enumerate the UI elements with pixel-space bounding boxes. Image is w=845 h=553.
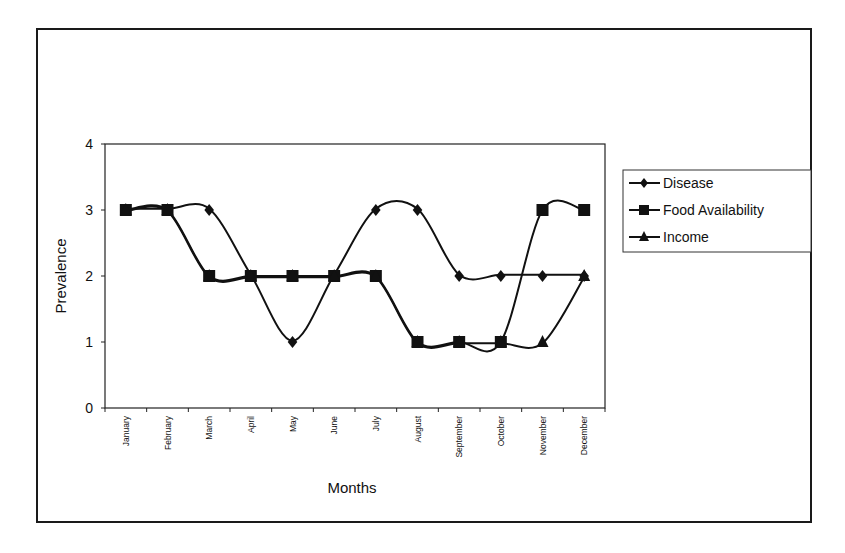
series-line <box>126 201 584 341</box>
x-axis-title: Months <box>327 479 376 496</box>
series-food-availability <box>126 201 584 352</box>
legend: DiseaseFood AvailabilityIncome <box>623 170 811 252</box>
x-tick-label: October <box>496 416 506 446</box>
triangle-marker-icon <box>537 335 549 347</box>
y-tick-label: 4 <box>85 136 93 152</box>
y-axis: 01234 <box>85 136 105 416</box>
series-disease <box>126 201 584 341</box>
legend-label: Income <box>663 229 709 245</box>
x-tick-label: April <box>246 416 256 433</box>
diamond-marker-icon <box>288 336 298 348</box>
y-tick-label: 3 <box>85 202 93 218</box>
y-tick-label: 0 <box>85 400 93 416</box>
line-chart: 01234 JanuaryFebruaryMarchAprilMayJuneJu… <box>0 0 845 553</box>
series-markers <box>121 204 589 348</box>
square-marker-icon <box>537 204 549 216</box>
x-tick-label: February <box>163 415 173 450</box>
x-tick-label: July <box>371 415 381 431</box>
series-income <box>126 207 584 348</box>
x-axis: JanuaryFebruaryMarchAprilMayJuneJulyAugu… <box>105 408 605 458</box>
x-tick-label: December <box>579 416 589 455</box>
x-tick-label: September <box>454 416 464 458</box>
square-marker-icon <box>639 205 649 215</box>
series-line <box>126 201 584 352</box>
legend-label: Food Availability <box>663 202 764 218</box>
series-line <box>126 207 584 348</box>
plot-border <box>105 144 605 408</box>
x-tick-label: May <box>288 415 298 432</box>
diamond-marker-icon <box>496 270 506 282</box>
y-tick-label: 2 <box>85 268 93 284</box>
diamond-marker-icon <box>538 270 548 282</box>
x-tick-label: June <box>329 416 339 435</box>
x-tick-label: August <box>413 415 423 442</box>
x-tick-label: November <box>538 416 548 455</box>
x-tick-label: January <box>121 415 131 446</box>
series-markers <box>120 204 590 348</box>
y-tick-label: 1 <box>85 334 93 350</box>
plot-area <box>105 144 605 408</box>
series-layer <box>120 201 590 352</box>
y-axis-title: Prevalence <box>52 238 69 313</box>
x-tick-label: March <box>204 416 214 440</box>
square-marker-icon <box>578 204 590 216</box>
legend-label: Disease <box>663 175 714 191</box>
